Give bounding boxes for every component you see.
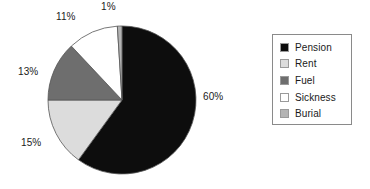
pie-slice-group <box>48 26 196 174</box>
slice-label-sickness: 11% <box>56 11 76 22</box>
legend-item-sickness[interactable]: Sickness <box>280 89 336 106</box>
legend-swatch-icon-burial <box>280 109 289 118</box>
legend-swatch-icon-fuel <box>280 76 289 85</box>
legend-label: Rent <box>295 58 317 69</box>
legend-item-fuel[interactable]: Fuel <box>280 72 336 89</box>
legend-item-pension[interactable]: Pension <box>280 39 336 56</box>
legend-label: Burial <box>295 108 321 119</box>
legend-swatch-icon-rent <box>280 59 289 68</box>
slice-label-rent: 15% <box>21 137 41 148</box>
legend-item-rent[interactable]: Rent <box>280 56 336 73</box>
legend-items: PensionRentFuelSicknessBurial <box>280 39 336 122</box>
slice-label-burial: 1% <box>101 1 116 12</box>
legend-item-burial[interactable]: Burial <box>280 105 336 122</box>
legend-label: Sickness <box>295 92 336 103</box>
slice-label-pension: 60% <box>203 91 223 102</box>
pie-chart-figure: 60% 15% 13% 11% 1% PensionRentFuelSickne… <box>0 0 370 189</box>
slice-label-fuel: 13% <box>18 66 38 77</box>
legend-label: Pension <box>295 42 332 53</box>
legend-label: Fuel <box>295 75 315 86</box>
legend-swatch-icon-pension <box>280 43 289 52</box>
legend: PensionRentFuelSicknessBurial <box>272 34 352 125</box>
legend-swatch-icon-sickness <box>280 93 289 102</box>
